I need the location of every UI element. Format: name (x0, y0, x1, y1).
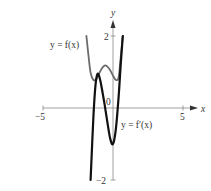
x-tick-label: 5 (180, 112, 185, 122)
y-tick-label: 2 (104, 32, 109, 42)
series-label-f-prime: y = f′(x) (121, 120, 152, 131)
origin-label: 0 (106, 97, 111, 107)
y-axis-arrow (111, 20, 116, 28)
series-line-f (86, 36, 122, 80)
chart-canvas: xy−552−20y = f(x)y = f′(x) (0, 0, 211, 191)
x-axis-label: x (200, 104, 206, 114)
series-label-f: y = f(x) (50, 40, 79, 51)
x-tick-label: −5 (35, 112, 45, 122)
y-axis-label: y (110, 8, 116, 18)
labels: xy−552−20y = f(x)y = f′(x) (35, 8, 206, 186)
y-tick-label: −2 (96, 176, 106, 186)
x-axis-arrow (190, 106, 198, 111)
